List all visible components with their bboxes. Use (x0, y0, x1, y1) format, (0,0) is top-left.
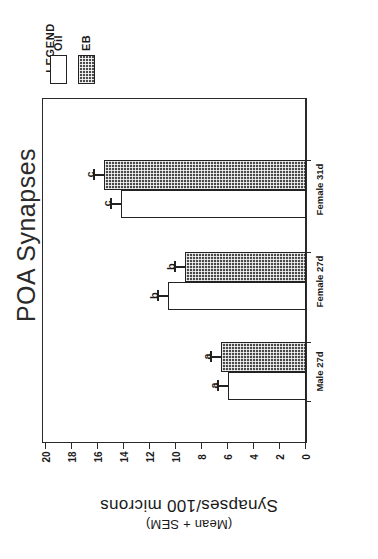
category-label-female-31d: Female 31d (313, 159, 326, 221)
legend-label-oil: Oil (51, 27, 65, 59)
axis-tick-label: 18 (66, 447, 78, 467)
axis-title-line2: (Mean + SEM) (49, 516, 329, 533)
axis-tick-label: 8 (196, 447, 208, 467)
sig-letter-male27d-oil: a (207, 379, 220, 393)
bar-female27d-oil (168, 282, 306, 310)
category-tick (306, 342, 311, 343)
figure-root: POA Synapses LEGEND Oil EB c c b b a (0, 0, 378, 559)
axis-tick-label: 0 (300, 447, 312, 467)
axis-tick-label: 16 (92, 447, 104, 467)
bar-male27d-oil (228, 372, 306, 400)
category-tick (306, 252, 311, 253)
category-label-female-27d: Female 27d (313, 251, 326, 313)
axis-title-line1: Synapses/100 microns (49, 495, 329, 516)
sig-letter-male27d-eb: a (200, 350, 213, 364)
legend: LEGEND Oil EB (36, 12, 136, 90)
bar-female31d-eb (104, 160, 306, 190)
bar-female31d-oil (121, 190, 306, 218)
axis-tick-label: 6 (222, 447, 234, 467)
axis-title: (Mean + SEM) Synapses/100 microns (49, 495, 329, 533)
axis-tick-label: 20 (40, 447, 52, 467)
axis-tick-label: 2 (274, 447, 286, 467)
bar-female27d-eb (185, 252, 306, 282)
page-title: POA Synapses (6, 140, 46, 330)
category-tick (306, 401, 311, 402)
sig-letter-female31d-eb: c (83, 168, 96, 182)
category-label-male-27d: Male 27d (313, 341, 326, 403)
axis-tick-label: 14 (118, 447, 130, 467)
sig-letter-female27d-eb: b (164, 260, 177, 274)
sig-letter-female31d-oil: c (100, 197, 113, 211)
axis-tick-label: 4 (248, 447, 260, 467)
axis-tick-label: 10 (170, 447, 182, 467)
axis-tick-label: 12 (144, 447, 156, 467)
category-tick (306, 160, 311, 161)
bar-male27d-eb (221, 342, 306, 372)
legend-swatch-oil-icon (50, 55, 67, 84)
legend-label-eb: EB (79, 27, 93, 59)
sig-letter-female27d-oil: b (147, 289, 160, 303)
legend-swatch-eb-icon (78, 55, 95, 84)
